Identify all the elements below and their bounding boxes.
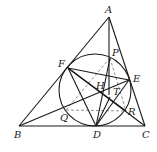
label-A: A bbox=[104, 4, 112, 15]
label-E: E bbox=[132, 73, 141, 84]
label-B: B bbox=[13, 129, 21, 140]
label-F: F bbox=[57, 58, 66, 69]
label-T: T bbox=[113, 86, 121, 97]
segment-FE bbox=[68, 68, 129, 80]
dashed-segment-QR bbox=[66, 110, 126, 111]
label-Q: Q bbox=[60, 112, 68, 123]
label-H: H bbox=[95, 80, 105, 91]
label-C: C bbox=[142, 129, 150, 140]
label-D: D bbox=[92, 129, 101, 140]
segment-AC bbox=[109, 17, 145, 126]
geometry-diagram: ABCDEFPHTQR bbox=[0, 0, 157, 152]
segment-AB bbox=[19, 17, 109, 126]
segment-DT bbox=[96, 97, 110, 126]
label-R: R bbox=[127, 106, 136, 117]
label-P: P bbox=[111, 47, 119, 58]
